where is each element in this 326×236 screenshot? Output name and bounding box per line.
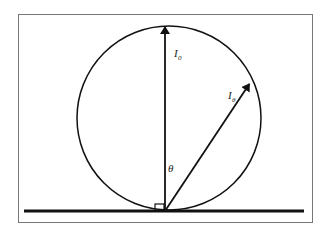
angle-theta-label: θ <box>168 162 174 174</box>
intensity-circle <box>77 26 261 210</box>
angled-intensity-label: I θ <box>227 89 236 104</box>
normal-intensity-label: I 0 <box>173 47 182 62</box>
angled-intensity-label-sub: θ <box>232 96 236 104</box>
diagram-canvas: I 0 I θ θ <box>0 0 326 236</box>
normal-intensity-label-sub: 0 <box>178 54 182 62</box>
angled-intensity-arrow <box>165 84 249 211</box>
